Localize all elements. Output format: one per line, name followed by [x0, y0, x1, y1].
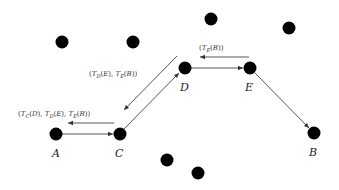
node-label-e: E [244, 81, 253, 94]
node-unlabeled [205, 13, 218, 26]
node-unlabeled [192, 167, 205, 180]
network-diagram: (TE(B)) (TD(E), TE(B)) (TC(D), TD(E), TE… [0, 0, 339, 190]
edge-e-b [255, 73, 309, 128]
message-label-e-d: (TE(B)) [199, 44, 224, 53]
node-unlabeled [283, 22, 296, 35]
node-b [308, 127, 321, 140]
nodes [50, 13, 321, 180]
node-a [50, 128, 63, 141]
node-c [114, 128, 127, 141]
node-label-b: B [308, 146, 317, 159]
node-e [244, 62, 257, 75]
node-unlabeled [127, 36, 140, 49]
message-label-d-c: (TD(E), TE(B)) [89, 70, 137, 79]
node-unlabeled [56, 36, 69, 49]
node-label-d: D [179, 81, 189, 94]
node-label-c: C [115, 147, 124, 160]
node-d [179, 62, 192, 75]
node-unlabeled [161, 154, 174, 167]
message-label-c-a: (TC(D), TD(E), TE(B)) [18, 110, 90, 119]
reverse-edges [68, 56, 249, 123]
node-label-a: A [51, 147, 60, 160]
